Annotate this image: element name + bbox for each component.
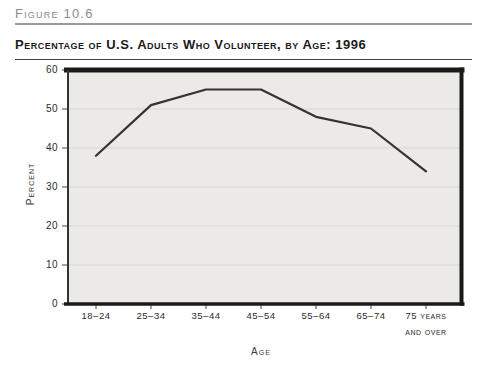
x-tick-label: 35–44 [179, 308, 233, 324]
y-axis-label: Percent [25, 163, 36, 205]
y-tick-label: 10 [32, 260, 58, 270]
y-tick-label: 0 [32, 299, 58, 309]
y-tick-label: 20 [32, 221, 58, 231]
x-tick-label: 75 years and over [399, 308, 453, 340]
y-tick-label: 60 [32, 65, 58, 75]
x-tick-label: 55–64 [289, 308, 343, 324]
x-tick-label: 18–24 [69, 308, 123, 324]
y-tick-label: 30 [32, 182, 58, 192]
x-tick-label: 65–74 [344, 308, 398, 324]
figure-panel: Figure 10.6 Percentage of U.S. Adults Wh… [0, 0, 479, 383]
x-axis-label: Age [68, 346, 454, 357]
x-tick-label: 25–34 [124, 308, 178, 324]
y-tick-label: 50 [32, 104, 58, 114]
x-tick-label: 45–54 [234, 308, 288, 324]
y-tick-label: 40 [32, 143, 58, 153]
